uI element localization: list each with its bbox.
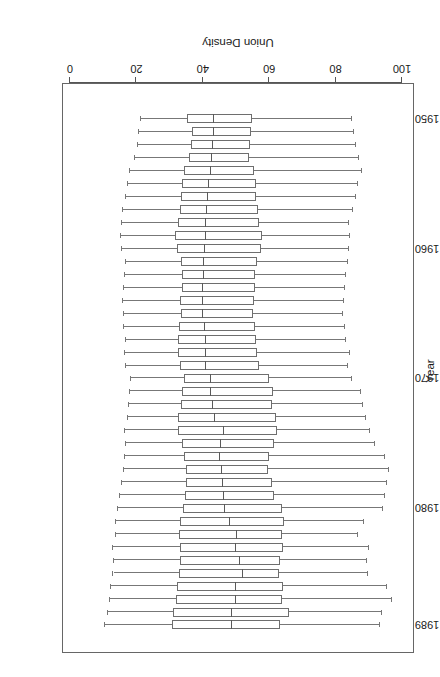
boxplot-whisker (282, 598, 392, 599)
boxplot-iqr-box (180, 543, 283, 552)
boxplot-whisker-cap (121, 480, 122, 485)
boxplot-whisker (138, 144, 191, 145)
boxplot-whisker (258, 209, 353, 210)
boxplot-median-line (212, 140, 213, 149)
boxplot-whisker-cap (361, 389, 362, 394)
boxplot-whisker (125, 274, 182, 275)
boxplot-iqr-box (178, 413, 276, 422)
boxplot-whisker-cap (391, 597, 392, 602)
boxplot-whisker (282, 533, 357, 534)
boxplot-whisker (110, 598, 176, 599)
boxplot-iqr-box (191, 140, 251, 149)
boxplot-whisker-cap (120, 233, 121, 238)
boxplot-whisker (284, 520, 364, 521)
boxplot-median-line (235, 543, 236, 552)
boxplot-whisker-cap (347, 259, 348, 264)
boxplot-whisker-cap (134, 155, 135, 160)
boxplot-whisker (277, 429, 371, 430)
boxplot-whisker (126, 261, 181, 262)
boxplot-median-line (229, 517, 230, 526)
boxplot-whisker-cap (381, 610, 382, 615)
boxplot-whisker-cap (374, 441, 375, 446)
boxplot-median-line (223, 491, 224, 500)
boxplot-median-line (207, 192, 208, 201)
boxplot-whisker (255, 287, 346, 288)
boxplot-whisker (257, 261, 348, 262)
boxplot-whisker-cap (355, 142, 356, 147)
boxplot-whisker-cap (344, 324, 345, 329)
boxplot-iqr-box (180, 517, 284, 526)
boxplot-median-line (213, 127, 214, 136)
boxplot-whisker (254, 170, 363, 171)
boxplot-whisker-cap (107, 610, 108, 615)
boxplot-median-line (235, 595, 236, 604)
boxplot-whisker-cap (347, 363, 348, 368)
boxplot-median-line (220, 439, 221, 448)
boxplot-median-line (202, 296, 203, 305)
boxplot-whisker (256, 196, 355, 197)
boxplot-whisker (259, 365, 348, 366)
boxplot-whisker-cap (369, 428, 370, 433)
density-tick (268, 77, 269, 83)
boxplot-whisker (255, 274, 346, 275)
boxplot-whisker (108, 611, 173, 612)
boxplot-median-line (210, 387, 211, 396)
boxplot-iqr-box (182, 179, 255, 188)
boxplot-whisker-cap (125, 259, 126, 264)
boxplot-iqr-box (178, 348, 257, 357)
boxplot-iqr-box (177, 582, 283, 591)
boxplot-whisker (250, 144, 356, 145)
boxplot-whisker-cap (368, 545, 369, 550)
boxplot-whisker-cap (129, 389, 130, 394)
year-tick-label: 1980 (414, 501, 440, 515)
boxplot-whisker-cap (125, 337, 126, 342)
boxplot-whisker (105, 624, 172, 625)
boxplot-whisker (251, 131, 354, 132)
boxplot-whisker-cap (125, 194, 126, 199)
boxplot-median-line (224, 504, 225, 513)
boxplot-whisker-cap (125, 441, 126, 446)
boxplot-whisker-cap (384, 454, 385, 459)
boxplot-whisker (262, 235, 350, 236)
boxplot-median-line (205, 348, 206, 357)
boxplot-whisker (255, 326, 345, 327)
boxplot-whisker-cap (115, 519, 116, 524)
union-density-axis: 100806040200 (62, 82, 414, 83)
boxplot-whisker-cap (127, 181, 128, 186)
boxplot-whisker (268, 468, 389, 469)
boxplot-whisker (122, 248, 177, 249)
boxplot-whisker (273, 390, 362, 391)
boxplot-iqr-box (189, 153, 249, 162)
boxplot-whisker-cap (353, 129, 354, 134)
union-density-axis-title: Union Density (62, 37, 414, 49)
boxplot-iqr-box (182, 283, 255, 292)
boxplot-iqr-box (175, 231, 262, 240)
boxplot-whisker-cap (123, 285, 124, 290)
boxplot-whisker-cap (365, 415, 366, 420)
boxplot-whisker-cap (344, 285, 345, 290)
boxplot-median-line (205, 231, 206, 240)
boxplot-iqr-box (184, 166, 254, 175)
density-tick-label: 20 (116, 62, 156, 75)
boxplot-whisker-cap (140, 117, 141, 122)
boxplot-whisker-cap (124, 350, 125, 355)
boxplot-whisker (117, 520, 181, 521)
boxplot-whisker-cap (357, 532, 358, 537)
boxplot-median-line (205, 218, 206, 227)
boxplot-median-line (231, 608, 232, 617)
boxplot-iqr-box (182, 439, 274, 448)
boxplot-whisker (252, 118, 352, 119)
boxplot-median-line (214, 413, 215, 422)
boxplot-median-line (210, 166, 211, 175)
boxplot-iqr-box (179, 569, 279, 578)
density-tick (69, 77, 70, 83)
year-tick-label: 1989 (414, 618, 440, 632)
boxplot-whisker (256, 339, 347, 340)
boxplot-whisker (120, 494, 184, 495)
boxplot-whisker-cap (122, 207, 123, 212)
boxplot-iqr-box (184, 452, 269, 461)
boxplot-whisker (259, 222, 349, 223)
boxplot-whisker-cap (128, 402, 129, 407)
boxplot-iqr-box (179, 322, 255, 331)
boxplot-iqr-box (181, 400, 271, 409)
